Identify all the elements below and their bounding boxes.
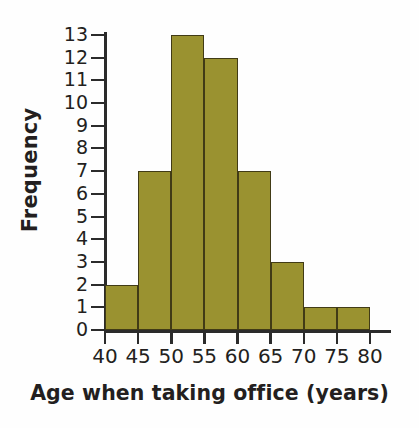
y-axis-tick-label: 9: [54, 116, 88, 135]
y-axis-tick: [91, 170, 104, 172]
histogram-bar: [337, 307, 370, 330]
y-axis-tick-label: 13: [54, 25, 88, 44]
histogram-bar: [271, 262, 304, 330]
y-axis-tick: [91, 193, 104, 195]
x-axis-tick: [269, 331, 272, 344]
y-axis-tick-label: 7: [54, 161, 88, 180]
histogram-bar: [204, 58, 237, 330]
x-axis-line: [104, 330, 391, 333]
histogram-bar: [171, 35, 204, 330]
y-axis-tick: [91, 284, 104, 286]
histogram-bar: [138, 171, 171, 330]
x-axis-tick: [170, 331, 173, 344]
y-axis-tick-label: 8: [54, 138, 88, 157]
y-axis-tick: [91, 79, 104, 81]
histogram-bar: [304, 307, 337, 330]
y-axis-tick-label: 12: [54, 48, 88, 67]
y-axis-title: Frequency: [10, 0, 50, 340]
y-axis-tick: [91, 306, 104, 308]
x-axis-tick: [336, 331, 339, 344]
y-axis-tick-label: 5: [54, 207, 88, 226]
x-axis-tick: [303, 331, 306, 344]
x-axis-tick: [369, 331, 372, 344]
y-axis-tick: [91, 34, 104, 36]
y-axis-tick-label: 6: [54, 184, 88, 203]
y-axis-tick-label: 3: [54, 252, 88, 271]
histogram-bar: [105, 285, 138, 330]
y-axis-tick-label: 10: [54, 93, 88, 112]
y-axis-tick-label: 4: [54, 229, 88, 248]
y-axis-tick-label: 0: [54, 320, 88, 339]
y-axis-tick: [91, 125, 104, 127]
x-axis-tick: [104, 331, 107, 344]
y-axis-tick-label: 1: [54, 297, 88, 316]
x-axis-tick: [203, 331, 206, 344]
y-axis-tick: [91, 57, 104, 59]
x-axis-title: Age when taking office (years): [0, 381, 419, 405]
y-axis-tick: [91, 329, 104, 331]
y-axis-tick: [91, 102, 104, 104]
y-axis-tick-label: 2: [54, 275, 88, 294]
y-axis-title-text: Frequency: [18, 108, 42, 233]
y-axis-tick-label: 11: [54, 70, 88, 89]
x-axis-tick-label: 80: [350, 346, 390, 366]
y-axis-tick: [91, 216, 104, 218]
y-axis-tick: [91, 238, 104, 240]
y-axis-tick-labels: 131211109876543210: [50, 0, 88, 428]
x-axis-tick: [137, 331, 140, 344]
x-axis-tick: [236, 331, 239, 344]
histogram-figure: Frequency 131211109876543210 40455055606…: [0, 0, 419, 428]
histogram-bar: [238, 171, 271, 330]
y-axis-tick: [91, 147, 104, 149]
y-axis-tick: [91, 261, 104, 263]
